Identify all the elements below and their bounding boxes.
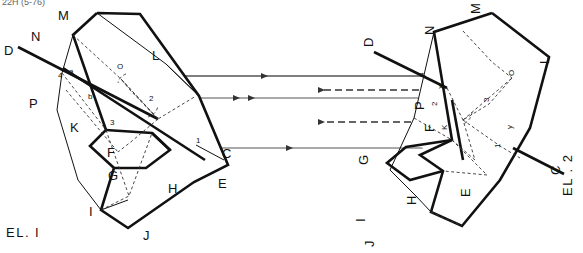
figure-page: 22H (5-76) [0, 0, 583, 253]
sheet-header-text: 22H (5-76) [2, 0, 45, 7]
el2-label-O: O [507, 70, 516, 76]
el2-label-L: L [537, 57, 552, 64]
element-2-prism-assembly: M N L O D 4 x P 2 3 y F K 1 C G H I J E … [353, 3, 575, 247]
el1-label-G: G [108, 168, 118, 183]
el2-label-K: K [440, 124, 449, 130]
el2-label-1: 1 [493, 143, 502, 148]
el2-label-M: M [468, 3, 483, 14]
el1-label-O: O [117, 62, 123, 71]
el1-caption: EL. I [6, 225, 40, 240]
el1-label-I: I [89, 204, 93, 219]
el2-label-P: P [412, 101, 427, 110]
el2-label-D: D [361, 38, 376, 47]
el1-edge-I-J-thin [101, 200, 128, 210]
el1-label-P: P [29, 96, 38, 111]
el1-label-4: 4 [58, 71, 63, 80]
el1-label-N: N [31, 29, 40, 44]
el2-label-y: y [505, 125, 514, 129]
el1-label-C: C [222, 146, 231, 161]
el2-label-I: I [353, 218, 368, 222]
el2-label-3: 3 [482, 97, 491, 102]
el1-label-1: 1 [196, 136, 201, 145]
el1-hidden-F-J [106, 130, 152, 196]
el2-caption: EL . 2 [560, 154, 575, 196]
el1-label-3: 3 [110, 118, 115, 127]
el1-label-H: H [168, 181, 177, 196]
sheet-header: 22H (5-76) [2, 0, 45, 7]
el2-label-F: F [422, 124, 437, 132]
el2-label-2: 2 [430, 101, 439, 106]
el2-label-E: E [458, 188, 473, 197]
el2-label-H: H [404, 196, 419, 205]
el1-label-E: E [218, 176, 227, 191]
el1-label-M: M [58, 8, 69, 23]
el2-label-4: 4 [417, 72, 426, 77]
el1-label-L: L [152, 48, 159, 63]
el2-label-J: J [362, 241, 377, 248]
el1-label-a: a [69, 67, 74, 76]
el1-label-F: F [107, 145, 115, 160]
el2-label-G: G [356, 155, 371, 165]
optical-ray-diagram: 22H (5-76) [0, 0, 583, 253]
el1-edge-P-I [57, 110, 101, 210]
element-1-prism-assembly: M N L O D P 4 a 2 b 3 K 1 C F G H I J E … [4, 8, 231, 243]
el1-label-D: D [4, 43, 13, 58]
el1-label-2: 2 [149, 94, 154, 103]
el2-label-N: N [422, 26, 437, 35]
el1-label-K: K [70, 120, 79, 135]
el1-label-b: b [88, 92, 93, 101]
el1-label-J: J [143, 228, 150, 243]
el2-label-x: x [436, 85, 445, 89]
